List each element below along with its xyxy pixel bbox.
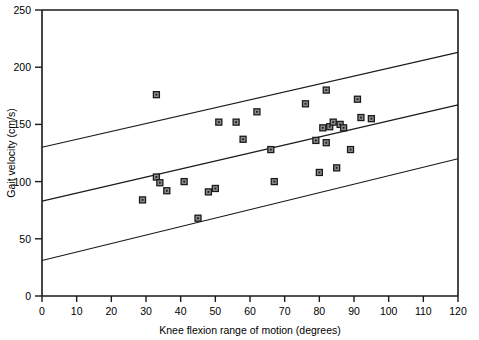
data-point-marker [181,179,187,185]
data-point-marker [212,185,218,191]
marker-center-dot [156,94,158,96]
data-point-marker [341,125,347,131]
data-point-marker [358,115,364,121]
data-point-marker [368,116,374,122]
x-axis-tick-label: 20 [105,305,117,317]
x-axis-tick-label: 90 [348,305,360,317]
data-point-marker [195,215,201,221]
data-point-marker [268,147,274,153]
data-point-marker [316,169,322,175]
regression-line [42,105,458,201]
upper-confidence-band [42,52,458,147]
marker-center-dot [315,140,317,142]
data-point-marker [302,101,308,107]
marker-center-dot [142,199,144,201]
marker-center-dot [208,191,210,193]
x-axis-tick-label: 40 [175,305,187,317]
x-axis-tick-label: 10 [71,305,83,317]
x-axis-tick-label: 50 [209,305,221,317]
marker-center-dot [197,217,199,219]
x-axis-title: Knee flexion range of motion (degrees) [159,324,341,336]
marker-center-dot [336,167,338,169]
marker-center-dot [218,121,220,123]
y-axis-tick-label: 200 [13,61,31,73]
marker-center-dot [322,127,324,129]
marker-center-dot [325,89,327,91]
marker-center-dot [256,111,258,113]
data-point-marker [271,179,277,185]
x-axis-tick-label: 0 [39,305,45,317]
data-point-marker [216,119,222,125]
marker-center-dot [332,121,334,123]
data-point-marker [348,147,354,153]
x-axis-tick-label: 70 [279,305,291,317]
x-axis-tick-label: 30 [140,305,152,317]
data-point-marker [164,188,170,194]
marker-center-dot [159,182,161,184]
data-point-marker [334,165,340,171]
data-point-marker [240,136,246,142]
marker-center-dot [273,181,275,183]
marker-center-dot [318,172,320,174]
x-axis-tick-label: 110 [415,305,432,317]
scatter-plot-figure: 0102030405060708090100110120050100150200… [0,0,479,340]
x-axis-tick-label: 100 [380,305,398,317]
marker-center-dot [166,190,168,192]
marker-center-dot [350,149,352,151]
lower-confidence-band [42,159,458,261]
x-axis-tick-label: 80 [313,305,325,317]
data-point-marker [313,137,319,143]
y-axis-tick-label: 250 [13,4,31,16]
data-point-marker [330,119,336,125]
data-point-marker [233,119,239,125]
marker-center-dot [325,142,327,144]
data-point-marker [323,87,329,93]
marker-center-dot [242,138,244,140]
y-axis-tick-label: 50 [19,233,31,245]
y-axis-tick-label: 0 [25,290,31,302]
marker-center-dot [343,127,345,129]
marker-center-dot [329,126,331,128]
x-axis-tick-label: 60 [244,305,256,317]
marker-center-dot [305,103,307,105]
marker-center-dot [270,149,272,151]
marker-center-dot [156,176,158,178]
x-axis-tick-label: 120 [449,305,467,317]
data-point-marker [140,197,146,203]
marker-center-dot [214,188,216,190]
data-point-marker [153,92,159,98]
chart-canvas: 0102030405060708090100110120050100150200… [0,0,479,340]
marker-center-dot [235,121,237,123]
data-point-marker [157,180,163,186]
y-axis-title: Gait velocity (cm/s) [5,108,17,197]
data-point-marker [254,109,260,115]
marker-center-dot [360,117,362,119]
data-point-marker [320,125,326,131]
data-point-marker [354,96,360,102]
data-point-marker [323,140,329,146]
data-point-marker [205,189,211,195]
marker-center-dot [370,118,372,120]
marker-center-dot [357,98,359,100]
marker-center-dot [183,181,185,183]
